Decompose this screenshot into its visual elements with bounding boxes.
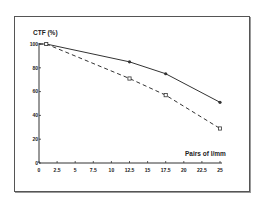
x-tick-label: 25 — [217, 167, 223, 173]
x-tick-label: 7.5 — [90, 167, 97, 173]
x-tick-label: 15 — [145, 167, 151, 173]
data-point-marker — [45, 42, 48, 45]
data-point-marker — [164, 72, 167, 75]
x-tick-label: 17.5 — [161, 167, 171, 173]
line-chart: CTF (%) Pairs of l/mm 02.557.51012.51517… — [0, 0, 264, 203]
x-axis-title: Pairs of l/mm — [185, 150, 226, 157]
data-point-marker — [128, 77, 131, 80]
x-tick-label: 0 — [38, 167, 41, 173]
y-axis-title: CTF (%) — [33, 29, 58, 37]
data-series — [39, 42, 222, 130]
y-tick-label: 0 — [35, 160, 38, 166]
x-tick-label: 2.5 — [54, 167, 61, 173]
y-tick-label: 40 — [32, 112, 38, 118]
x-tick-label: 22.5 — [197, 167, 207, 173]
y-tick-label: 100 — [30, 41, 39, 47]
x-tick-label: 20 — [181, 167, 187, 173]
x-tick-label: 10 — [109, 167, 115, 173]
y-tick-label: 80 — [32, 65, 38, 71]
y-tick-label: 60 — [32, 88, 38, 94]
x-tick-label: 12.5 — [125, 167, 135, 173]
y-tick-label: 20 — [32, 136, 38, 142]
series-line-dashed — [39, 44, 220, 128]
data-point-marker — [218, 127, 221, 130]
data-point-marker — [164, 94, 167, 97]
x-tick-label: 5 — [74, 167, 77, 173]
data-point-marker — [218, 101, 221, 104]
data-point-marker — [128, 60, 131, 63]
